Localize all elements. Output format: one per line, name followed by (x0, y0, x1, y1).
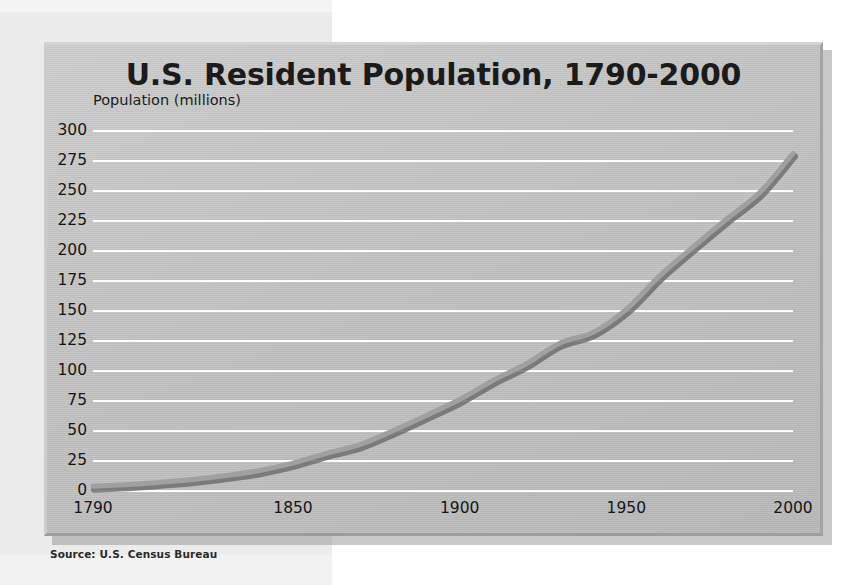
y-axis-tick-label: 0 (27, 481, 87, 499)
y-axis-tick-label: 75 (27, 391, 87, 409)
y-axis-tick-label: 250 (27, 181, 87, 199)
x-axis-tick-label: 1900 (415, 499, 505, 517)
y-axis-tick-label: 175 (27, 271, 87, 289)
source-note: Source: U.S. Census Bureau (50, 548, 217, 560)
chart-panel: U.S. Resident Population, 1790-2000 Popu… (44, 42, 823, 536)
x-axis-tick-label: 1950 (581, 499, 671, 517)
x-axis-tick-label: 2000 (748, 499, 838, 517)
y-axis-caption: Population (millions) (93, 92, 241, 108)
population-line-shadow (95, 156, 795, 489)
page-background-top-strip (0, 0, 332, 12)
y-axis-tick-label: 300 (27, 121, 87, 139)
y-axis-tick-label: 25 (27, 451, 87, 469)
y-axis-tick-label: 225 (27, 211, 87, 229)
x-axis-tick-label: 1850 (248, 499, 338, 517)
y-axis-tick-label: 200 (27, 241, 87, 259)
population-line (93, 153, 793, 486)
y-axis-tick-label: 275 (27, 151, 87, 169)
y-axis-tick-label: 50 (27, 421, 87, 439)
y-axis-tick-label: 125 (27, 331, 87, 349)
chart-title: U.S. Resident Population, 1790-2000 (47, 57, 820, 92)
data-line-chart (93, 131, 793, 491)
y-axis-tick-label: 100 (27, 361, 87, 379)
y-axis-tick-label: 150 (27, 301, 87, 319)
plot-area: 3002752502252001751501251007550250 17901… (93, 131, 793, 491)
x-axis-tick-label: 1790 (48, 499, 138, 517)
